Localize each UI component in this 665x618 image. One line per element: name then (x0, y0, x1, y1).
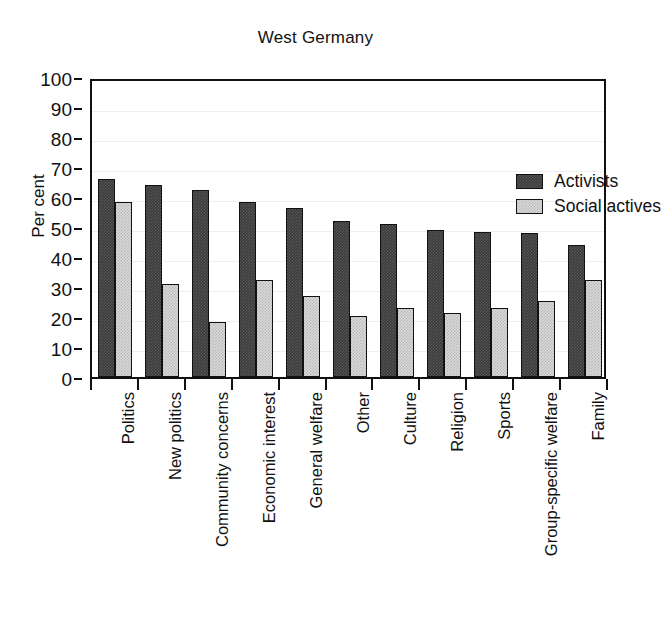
legend-label: Activists (554, 171, 618, 192)
y-tick-mark (74, 168, 82, 170)
x-axis-label: General welfare (308, 392, 325, 508)
y-tick-mark (74, 258, 82, 260)
y-tick-label-40: 40 (51, 250, 72, 269)
y-tick-label-60: 60 (51, 190, 72, 209)
bar (162, 284, 179, 377)
y-tick-label-70: 70 (51, 160, 72, 179)
bar-group (145, 81, 179, 377)
bar (380, 224, 397, 377)
y-tick-label-10: 10 (51, 340, 72, 359)
y-tick-mark (74, 78, 82, 80)
x-tick-mark (606, 379, 608, 390)
x-axis-label: New politics (167, 392, 184, 480)
x-axis-label: Religion (449, 392, 466, 452)
x-tick-mark (559, 379, 561, 390)
bar (115, 202, 132, 378)
x-tick-mark (325, 379, 327, 390)
y-tick-label-90: 90 (51, 100, 72, 119)
bar (303, 296, 320, 377)
x-axis-label: Politics (120, 392, 137, 444)
y-axis-title: Per cent (29, 151, 49, 261)
y-tick-label-100: 100 (40, 70, 72, 89)
bar-group (427, 81, 461, 377)
bar (145, 185, 162, 377)
bar-group (568, 81, 602, 377)
bar (239, 202, 256, 378)
y-tick-mark (74, 318, 82, 320)
bar-group (192, 81, 226, 377)
x-tick-mark (90, 379, 92, 390)
chart-legend: ActivistsSocial actives (516, 169, 665, 219)
y-tick-mark (74, 288, 82, 290)
y-tick-label-30: 30 (51, 280, 72, 299)
x-axis-label: Community concerns (214, 392, 231, 547)
bar (585, 280, 602, 378)
bar (474, 232, 491, 378)
y-tick-label-50: 50 (51, 220, 72, 239)
x-tick-mark (278, 379, 280, 390)
bar (333, 221, 350, 377)
bar-group (286, 81, 320, 377)
x-tick-mark (137, 379, 139, 390)
bar (209, 322, 226, 378)
chart-title: West Germany (0, 28, 631, 48)
x-tick-mark (418, 379, 420, 390)
bar (444, 313, 461, 378)
x-axis-label: Culture (402, 392, 419, 445)
bar (350, 316, 367, 378)
bar-group (98, 81, 132, 377)
y-tick-label-0: 0 (61, 370, 72, 389)
bar (568, 245, 585, 377)
y-tick-mark (74, 108, 82, 110)
x-axis-label: Other (355, 392, 372, 433)
legend-label: Social actives (554, 196, 661, 217)
y-tick-mark (74, 198, 82, 200)
bar (397, 308, 414, 377)
x-tick-mark (231, 379, 233, 390)
bar-group (380, 81, 414, 377)
x-tick-mark (512, 379, 514, 390)
x-axis-label: Sports (496, 392, 513, 440)
y-tick-mark (74, 348, 82, 350)
bar (192, 190, 209, 378)
x-tick-mark (184, 379, 186, 390)
bar (256, 280, 273, 378)
bar (286, 208, 303, 378)
x-axis-ticks (90, 379, 606, 391)
x-axis-label: Group-specific welfare (543, 392, 560, 556)
x-axis-labels: PoliticsNew politicsCommunity concernsEc… (90, 392, 606, 602)
bar (538, 301, 555, 378)
legend-swatch-icon (516, 199, 543, 214)
bar-group (474, 81, 508, 377)
legend-swatch-icon (516, 174, 543, 189)
bar (98, 179, 115, 377)
x-axis-label: Economic interest (261, 392, 278, 523)
bar (491, 308, 508, 377)
y-tick-mark (74, 378, 82, 380)
bar-group (333, 81, 367, 377)
y-tick-label-80: 80 (51, 130, 72, 149)
bar (521, 233, 538, 377)
x-tick-mark (371, 379, 373, 390)
bar-group (239, 81, 273, 377)
legend-item: Activists (516, 169, 665, 194)
y-tick-mark (74, 228, 82, 230)
y-tick-label-20: 20 (51, 310, 72, 329)
y-tick-mark (74, 138, 82, 140)
bar-group (521, 81, 555, 377)
plot-area: ActivistsSocial actives (90, 79, 606, 379)
bar (427, 230, 444, 377)
x-tick-mark (465, 379, 467, 390)
legend-item: Social actives (516, 194, 665, 219)
x-axis-label: Family (590, 392, 607, 441)
